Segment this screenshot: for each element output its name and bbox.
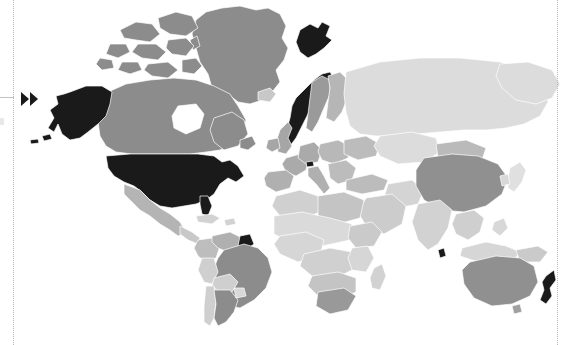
country-switzerland-austria[interactable] [306,161,314,167]
fast-forward-icon [21,92,39,106]
country-korea[interactable] [500,174,510,186]
fast-forward-button[interactable] [21,92,39,106]
screenshot-stage [0,0,576,345]
edge-tick-marker [0,118,4,125]
leader-line [0,97,14,98]
country-uruguay-paraguay [234,288,246,298]
country-tasmania[interactable] [512,304,522,314]
right-crop-guide [557,0,558,345]
world-choropleth-map[interactable] [0,0,576,345]
left-crop-guide [13,0,14,345]
